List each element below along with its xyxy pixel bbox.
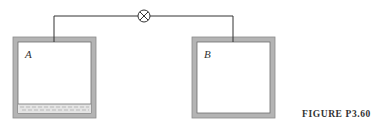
figure-caption: FIGURE P3.60 xyxy=(302,109,371,119)
valve-icon xyxy=(138,10,150,22)
tank-b-label: B xyxy=(204,48,211,60)
liquid-layer xyxy=(18,104,91,113)
tank-a-label: A xyxy=(25,48,32,60)
